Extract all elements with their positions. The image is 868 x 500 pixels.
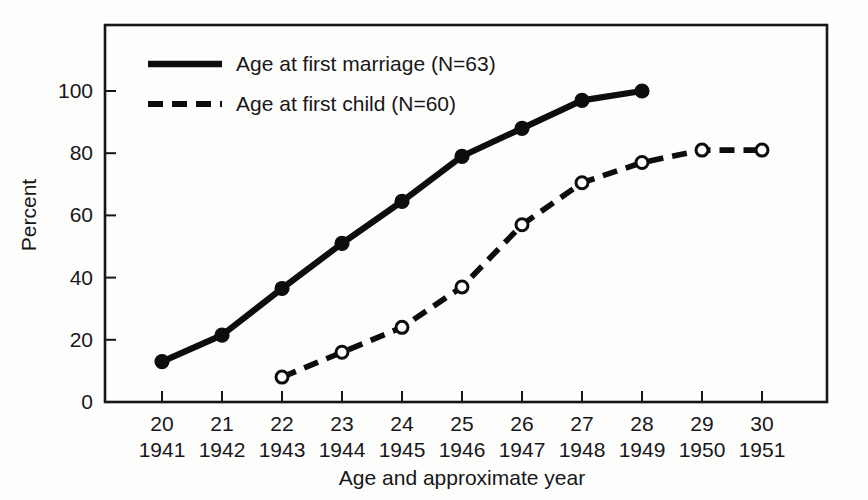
chart-figure: 020406080100 2021222324252627282930 1941… (0, 0, 868, 500)
y-tick-label-60: 60 (70, 203, 93, 226)
x-axis-title: Age and approximate year (339, 466, 585, 489)
data-point-0-25 (455, 149, 469, 163)
data-point-0-21 (215, 328, 229, 342)
x-tick-label-year-22: 1943 (259, 438, 306, 461)
x-tick-label-age-22: 22 (270, 412, 293, 435)
x-tick-label-age-29: 29 (690, 412, 713, 435)
data-point-0-28 (635, 84, 649, 98)
y-tick-label-40: 40 (70, 266, 93, 289)
data-point-1-26 (516, 219, 528, 231)
x-tick-label-year-23: 1944 (319, 438, 366, 461)
chart-legend: Age at first marriage (N=63)Age at first… (148, 52, 496, 115)
x-tick-label-year-26: 1947 (499, 438, 546, 461)
plot-frame (105, 25, 827, 402)
y-axis-tick-labels: 020406080100 (58, 79, 93, 413)
x-tick-label-age-24: 24 (390, 412, 414, 435)
x-tick-label-year-25: 1946 (439, 438, 486, 461)
data-point-1-30 (756, 144, 768, 156)
data-point-0-27 (575, 93, 589, 107)
x-axis-age-labels: 2021222324252627282930 (150, 412, 773, 435)
x-tick-label-year-30: 1951 (739, 438, 786, 461)
x-tick-label-age-21: 21 (210, 412, 233, 435)
data-point-0-24 (395, 194, 409, 208)
y-axis-title: Percent (17, 179, 40, 252)
legend-label-1: Age at first child (N=60) (236, 92, 456, 115)
x-tick-label-year-27: 1948 (559, 438, 606, 461)
x-tick-label-age-30: 30 (750, 412, 773, 435)
x-tick-label-year-24: 1945 (379, 438, 426, 461)
x-tick-label-year-28: 1949 (619, 438, 666, 461)
y-tick-label-80: 80 (70, 141, 93, 164)
y-axis-ticks (105, 91, 116, 340)
data-point-1-29 (696, 144, 708, 156)
line-chart: 020406080100 2021222324252627282930 1941… (0, 0, 868, 500)
data-markers-group (155, 84, 768, 383)
y-tick-label-20: 20 (70, 328, 93, 351)
data-point-1-22 (276, 371, 288, 383)
plot-border (105, 25, 827, 402)
data-point-1-27 (576, 177, 588, 189)
data-point-0-26 (515, 121, 529, 135)
x-tick-label-age-28: 28 (630, 412, 653, 435)
x-tick-label-age-27: 27 (570, 412, 593, 435)
x-axis-ticks (162, 391, 762, 402)
x-tick-label-age-25: 25 (450, 412, 473, 435)
x-tick-label-age-23: 23 (330, 412, 353, 435)
series-line-1 (282, 150, 762, 377)
data-series-group (162, 91, 762, 377)
y-tick-label-100: 100 (58, 79, 93, 102)
data-point-1-23 (336, 346, 348, 358)
x-tick-label-year-29: 1950 (679, 438, 726, 461)
data-point-1-24 (396, 321, 408, 333)
data-point-0-23 (335, 236, 349, 250)
x-tick-label-year-21: 1942 (199, 438, 246, 461)
data-point-0-20 (155, 355, 169, 369)
x-tick-label-age-20: 20 (150, 412, 173, 435)
x-tick-label-age-26: 26 (510, 412, 533, 435)
x-tick-label-year-20: 1941 (139, 438, 186, 461)
data-point-1-28 (636, 157, 648, 169)
x-axis-year-labels: 1941194219431944194519461947194819491950… (139, 438, 786, 461)
data-point-0-22 (275, 281, 289, 295)
data-point-1-25 (456, 281, 468, 293)
y-tick-label-0: 0 (81, 390, 93, 413)
legend-label-0: Age at first marriage (N=63) (236, 52, 496, 75)
